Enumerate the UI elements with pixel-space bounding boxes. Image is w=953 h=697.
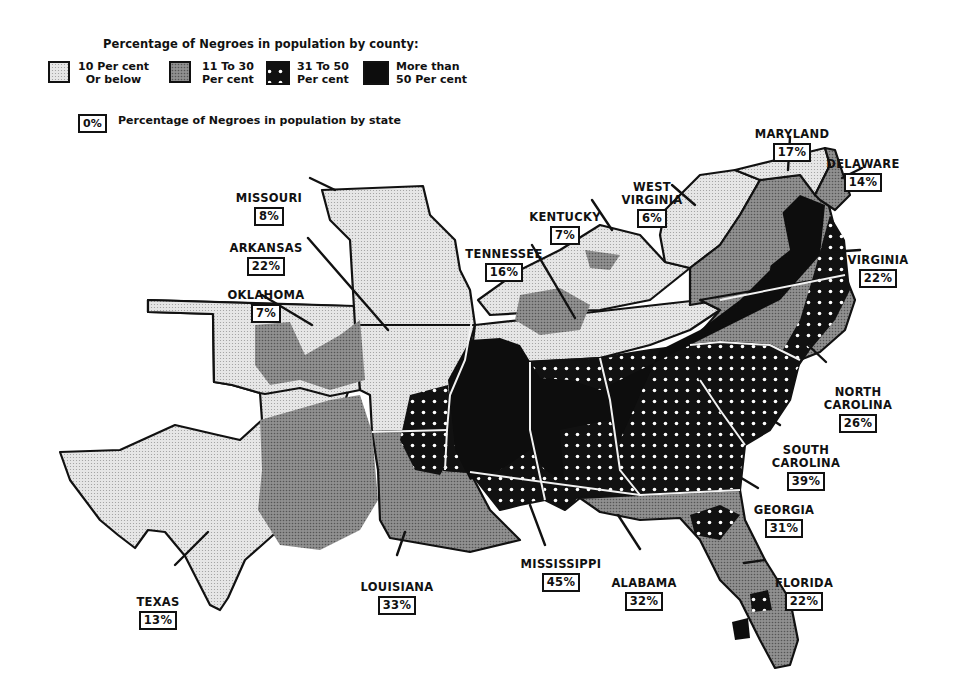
label-delaware: DELAWARE14% [823, 132, 903, 192]
state-key-text: Percentage of Negroes in population by s… [118, 114, 401, 127]
label-georgia: GEORGIA31% [752, 478, 816, 538]
label-virginia: VIRGINIA22% [842, 228, 914, 288]
label-maryland: MARYLAND17% [752, 102, 832, 162]
label-louisiana: LOUISIANA33% [355, 555, 439, 615]
state-key-box: 0% [78, 114, 107, 133]
legend-title: Percentage of Negroes in population by c… [103, 37, 419, 51]
state-percentage-key: 0% Percentage of Negroes in population b… [78, 112, 107, 133]
label-mississippi: MISSISSIPPI45% [517, 532, 605, 592]
label-alabama: ALABAMA32% [606, 551, 682, 611]
state-missouri [322, 186, 475, 325]
label-oklahoma: OKLAHOMA7% [221, 263, 311, 323]
label-kentucky: KENTUCKY7% [525, 185, 605, 245]
label-florida: FLORIDA22% [768, 551, 840, 611]
label-texas: TEXAS13% [128, 570, 188, 630]
label-west-virginia: WEST VIRGINIA6% [620, 155, 684, 228]
